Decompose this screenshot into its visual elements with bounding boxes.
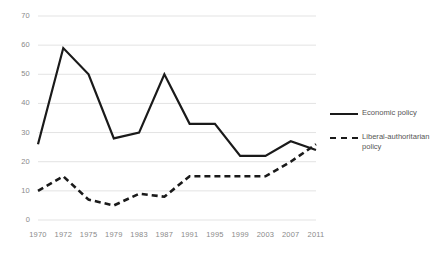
legend-swatch-dashed-line-icon [330, 133, 358, 143]
y-axis-tick-label: 20 [8, 157, 30, 166]
line-chart: 010203040506070 197019721975197919831987… [0, 0, 442, 256]
y-axis-tick-label: 60 [8, 40, 30, 49]
x-axis-tick-label: 1975 [76, 230, 102, 239]
y-axis-tick-label: 50 [8, 69, 30, 78]
legend-swatch-solid-line-icon [330, 109, 358, 119]
x-axis-tick-label: 1970 [25, 230, 51, 239]
legend-label-liberal-authoritarian-policy: Liberal-authoritarian policy [358, 132, 442, 153]
x-axis-tick-label: 1991 [177, 230, 203, 239]
chart-legend: Economic policy Liberal-authoritarian po… [330, 108, 442, 166]
x-axis-tick-label: 2011 [303, 230, 329, 239]
x-axis-tick-label: 1987 [151, 230, 177, 239]
x-axis-tick-label: 1983 [126, 230, 152, 239]
y-axis-tick-label: 40 [8, 98, 30, 107]
legend-item-economic-policy: Economic policy [330, 108, 442, 119]
legend-item-liberal-authoritarian-policy: Liberal-authoritarian policy [330, 132, 442, 153]
x-axis-tick-label: 1995 [202, 230, 228, 239]
x-axis-tick-label: 1999 [227, 230, 253, 239]
x-axis-tick-label: 1972 [50, 230, 76, 239]
x-axis-tick-label: 2007 [278, 230, 304, 239]
legend-label-economic-policy: Economic policy [358, 108, 417, 118]
x-axis-tick-label: 1979 [101, 230, 127, 239]
series-line-0 [38, 48, 316, 156]
y-axis-tick-label: 10 [8, 186, 30, 195]
series-line-1 [38, 144, 316, 205]
y-axis-tick-label: 30 [8, 128, 30, 137]
y-axis-tick-label: 70 [8, 11, 30, 20]
x-axis-tick-label: 2003 [252, 230, 278, 239]
y-axis-tick-label: 0 [8, 215, 30, 224]
